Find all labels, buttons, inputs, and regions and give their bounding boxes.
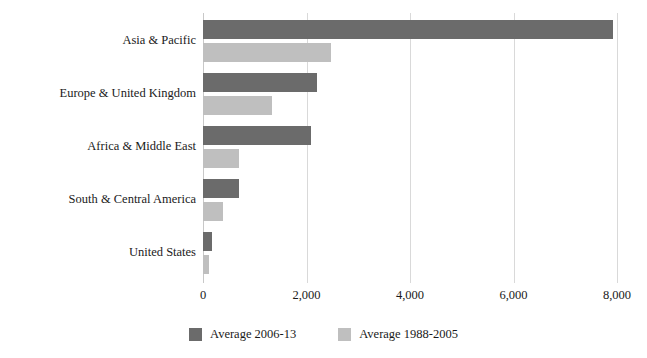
x-axis-tick-labels: 02,0004,0006,0008,000 xyxy=(203,288,617,306)
bar[interactable] xyxy=(203,73,317,92)
bar[interactable] xyxy=(203,20,613,39)
y-axis-label-united-states: United States xyxy=(6,245,196,260)
legend-swatch-icon xyxy=(189,328,202,341)
chart-legend: Average 2006-13 Average 1988-2005 xyxy=(0,327,647,342)
bar[interactable] xyxy=(203,126,311,145)
bar[interactable] xyxy=(203,202,223,221)
bar-group xyxy=(203,18,617,71)
x-axis-tick-label: 4,000 xyxy=(396,288,424,303)
x-axis-tick-label: 2,000 xyxy=(292,288,320,303)
x-axis-tick-label: 8,000 xyxy=(603,288,631,303)
legend-label: Average 1988-2005 xyxy=(359,327,458,342)
gridline xyxy=(617,13,618,283)
bar-group xyxy=(203,230,617,283)
chart-title xyxy=(0,0,647,5)
bar[interactable] xyxy=(203,149,239,168)
bar-group xyxy=(203,177,617,230)
bar-group xyxy=(203,124,617,177)
legend-swatch-icon xyxy=(338,328,351,341)
plot-area xyxy=(203,13,617,283)
bar[interactable] xyxy=(203,96,272,115)
bar-group xyxy=(203,71,617,124)
bar[interactable] xyxy=(203,179,239,198)
legend-item-average-1988-2005[interactable]: Average 1988-2005 xyxy=(338,327,458,342)
legend-item-average-2006-13[interactable]: Average 2006-13 xyxy=(189,327,296,342)
bar[interactable] xyxy=(203,255,209,274)
bar[interactable] xyxy=(203,43,331,62)
bar-chart: Asia & Pacific Europe & United Kingdom A… xyxy=(0,0,647,358)
y-axis-label-europe-united-kingdom: Europe & United Kingdom xyxy=(6,86,196,101)
legend-label: Average 2006-13 xyxy=(210,327,296,342)
x-axis-tick-label: 0 xyxy=(200,288,206,303)
bar[interactable] xyxy=(203,232,212,251)
y-axis-label-africa-middle-east: Africa & Middle East xyxy=(6,139,196,154)
y-axis-label-south-central-america: South & Central America xyxy=(6,192,196,207)
y-axis-label-asia-pacific: Asia & Pacific xyxy=(6,33,196,48)
x-axis-tick-label: 6,000 xyxy=(499,288,527,303)
